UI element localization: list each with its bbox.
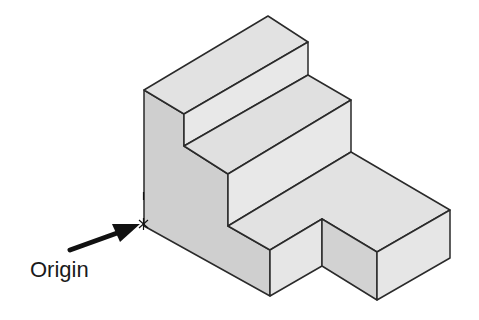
origin-label: Origin [30,257,89,283]
arrow-icon [70,224,140,250]
